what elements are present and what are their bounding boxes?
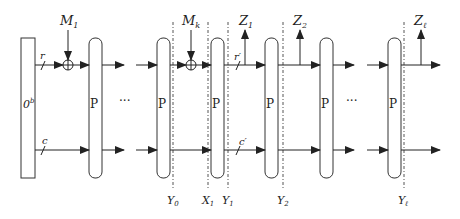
- rate-label: r: [40, 50, 46, 61]
- sponge-construction-diagram: 0b P P P P P P ··· ··· r r′: [0, 0, 460, 219]
- permutation-label: P: [90, 97, 98, 111]
- output-label-z2: Z2: [292, 13, 307, 30]
- state-label-y0: Y0: [167, 194, 179, 208]
- state-label-y2: Y2: [277, 194, 289, 208]
- rate-prime-label: r′: [234, 51, 242, 62]
- xor-node-k: [186, 60, 196, 70]
- permutation-label: P: [158, 97, 166, 111]
- permutation-label: P: [266, 97, 274, 111]
- state-label-x1: X1: [201, 194, 214, 208]
- state-marker-labels: Y0 X1 Y1 Y2 Yℓ: [167, 194, 408, 208]
- permutation-label: P: [321, 97, 329, 111]
- input-label-m1: M1: [59, 13, 78, 30]
- capacity-label: c: [42, 135, 48, 146]
- capacity-prime-label: c′: [239, 136, 248, 147]
- xor-node-1: [63, 60, 73, 70]
- ellipsis-1: ···: [119, 94, 130, 108]
- state-label-y1: Y1: [222, 194, 234, 208]
- input-label-mk: Mk: [181, 13, 200, 30]
- permutation-label: P: [389, 97, 397, 111]
- permutation-label: P: [212, 97, 220, 111]
- state-marker-lines: [173, 22, 404, 190]
- output-label-z1: Z1: [238, 13, 253, 30]
- state-label-yl: Yℓ: [398, 194, 408, 208]
- output-label-zl: Zℓ: [413, 13, 427, 30]
- ellipsis-2: ···: [346, 94, 357, 108]
